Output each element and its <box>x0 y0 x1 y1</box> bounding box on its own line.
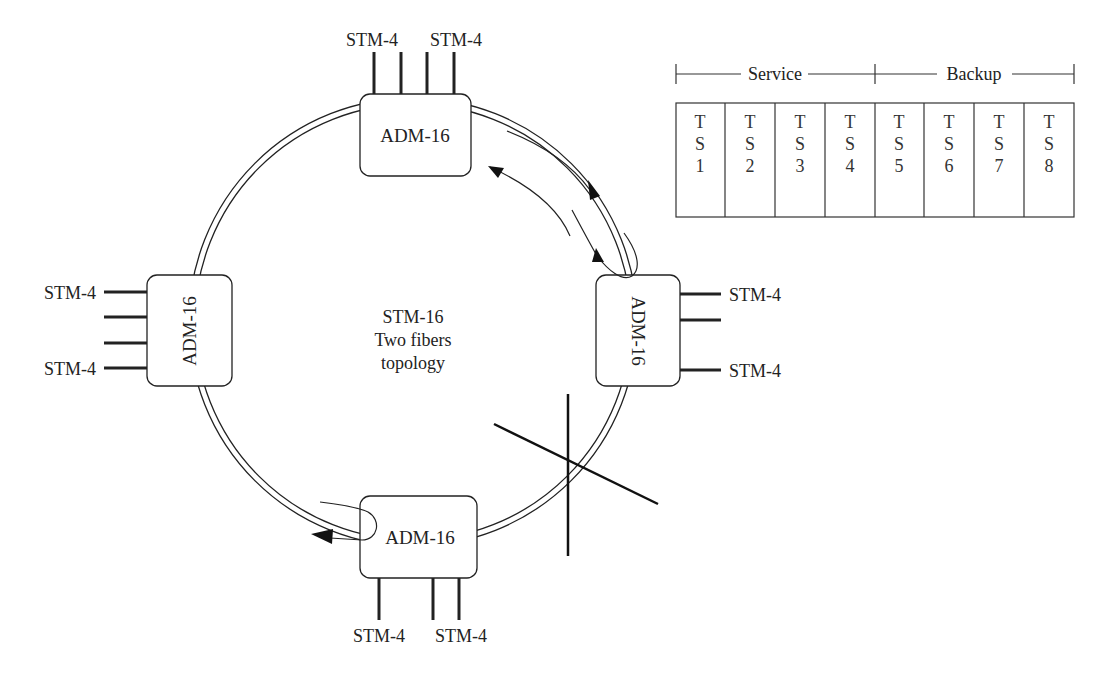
traffic-flow-arrows <box>490 131 637 278</box>
svg-text:6: 6 <box>945 156 954 176</box>
svg-text:S: S <box>745 134 755 154</box>
svg-text:2: 2 <box>746 156 755 176</box>
tributary-label: STM-4 <box>435 626 487 646</box>
svg-text:S: S <box>795 134 805 154</box>
svg-text:T: T <box>745 112 756 132</box>
svg-text:1: 1 <box>696 156 705 176</box>
adm-label-top: ADM-16 <box>380 125 450 146</box>
svg-text:S: S <box>845 134 855 154</box>
svg-text:Two fibers: Two fibers <box>374 330 451 350</box>
adm-label-bottom: ADM-16 <box>385 527 455 548</box>
svg-text:7: 7 <box>995 156 1004 176</box>
adm-node-left: ADM-16 STM-4 STM-4 <box>44 275 232 386</box>
timeslot-2: T S 2 <box>745 112 756 176</box>
timeslot-1: T S 1 <box>695 112 706 176</box>
timeslot-5: T S 5 <box>894 112 905 176</box>
tributary-label: STM-4 <box>729 285 781 305</box>
timeslot-3: T S 3 <box>795 112 806 176</box>
adm-label-left: ADM-16 <box>179 296 200 366</box>
timeslot-frame: Service Backup T S 1 T S 2 T S 3 T <box>676 64 1074 217</box>
adm-label-right: ADM-16 <box>628 296 649 366</box>
svg-text:S: S <box>1044 134 1054 154</box>
svg-text:4: 4 <box>846 156 855 176</box>
svg-text:S: S <box>695 134 705 154</box>
tributary-label: STM-4 <box>729 361 781 381</box>
svg-text:T: T <box>795 112 806 132</box>
group-label-backup: Backup <box>947 64 1002 84</box>
svg-text:T: T <box>695 112 706 132</box>
svg-text:STM-16: STM-16 <box>382 307 443 327</box>
timeslot-4: T S 4 <box>845 112 856 176</box>
adm-node-top: ADM-16 STM-4 STM-4 <box>346 30 482 176</box>
adm-node-bottom: ADM-16 STM-4 STM-4 <box>353 496 487 646</box>
svg-text:T: T <box>944 112 955 132</box>
adm-node-right: ADM-16 STM-4 STM-4 <box>596 275 781 386</box>
svg-text:5: 5 <box>895 156 904 176</box>
arrowhead-icon <box>311 529 333 544</box>
tributary-label: STM-4 <box>430 30 482 50</box>
svg-text:S: S <box>894 134 904 154</box>
svg-text:topology: topology <box>381 353 445 373</box>
timeslot-7: T S 7 <box>994 112 1005 176</box>
tributary-label: STM-4 <box>44 359 96 379</box>
tributary-label: STM-4 <box>353 626 405 646</box>
ring-diagram: ADM-16 STM-4 STM-4 ADM-16 STM-4 STM-4 AD… <box>0 0 1101 674</box>
svg-text:S: S <box>994 134 1004 154</box>
timeslot-6: T S 6 <box>944 112 955 176</box>
svg-text:S: S <box>944 134 954 154</box>
svg-text:T: T <box>1044 112 1055 132</box>
center-label: STM-16 Two fibers topology <box>374 307 451 373</box>
tributary-label: STM-4 <box>44 283 96 303</box>
svg-text:T: T <box>994 112 1005 132</box>
tributary-label: STM-4 <box>346 30 398 50</box>
svg-text:T: T <box>894 112 905 132</box>
group-label-service: Service <box>748 64 802 84</box>
svg-text:8: 8 <box>1045 156 1054 176</box>
svg-text:3: 3 <box>796 156 805 176</box>
svg-text:T: T <box>845 112 856 132</box>
timeslot-8: T S 8 <box>1044 112 1055 176</box>
